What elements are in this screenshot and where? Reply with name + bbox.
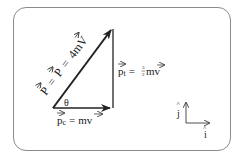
hypotenuse-label: P = P = 4mV	[36, 33, 90, 98]
axes-indicator: j ^ i ^	[176, 100, 209, 140]
svg-text:^: ^	[177, 100, 181, 108]
angle-theta-label: θ	[64, 97, 69, 108]
svg-text:2: 2	[142, 72, 145, 77]
svg-text:pc=mv: pc=mv	[57, 114, 93, 127]
svg-text:mv: mv	[146, 65, 161, 77]
pt-label: pt= 3 2 mv	[118, 64, 164, 78]
svg-text:3: 3	[142, 65, 145, 70]
momentum-diagram: θ P = P = 4mV pt= 3 2 mv pc=mv j ^ i	[0, 0, 242, 158]
svg-text:pt=: pt=	[118, 65, 135, 78]
svg-text:P = P =: P = P = 4mV	[37, 33, 91, 98]
axis-j-label: j	[176, 108, 180, 119]
pc-label: pc=mv	[57, 113, 102, 127]
